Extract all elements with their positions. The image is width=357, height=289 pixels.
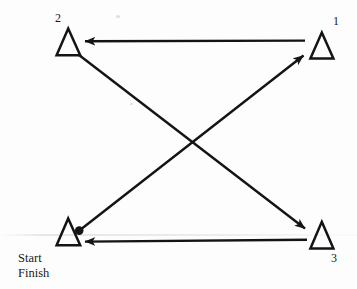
triangle-mark-3	[310, 222, 333, 249]
edge-mark1-to-mark2	[85, 41, 305, 42]
triangle-mark-2	[57, 29, 81, 56]
diagram-canvas: 2 1 3 Start Finish	[0, 0, 357, 289]
node-label-2: 2	[55, 12, 61, 24]
edge-mark3-to-finish	[85, 240, 307, 242]
node-label-1: 1	[333, 15, 339, 27]
start-dot-marker	[75, 226, 84, 235]
start-label: Start	[18, 251, 42, 266]
finish-label: Finish	[18, 266, 49, 281]
diagram-svg	[0, 0, 357, 289]
triangle-mark-1	[310, 33, 333, 59]
node-label-3: 3	[331, 252, 337, 264]
